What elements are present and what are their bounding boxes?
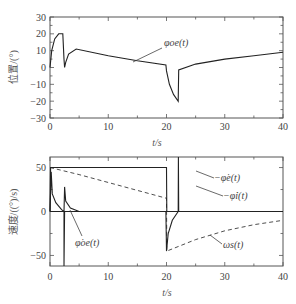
y-tick-label: 0 <box>41 62 46 73</box>
top-annotation-leader <box>133 48 162 62</box>
x-tick-label: 20 <box>162 121 172 132</box>
y-tick-label: −50 <box>30 250 46 261</box>
x-tick-label: 30 <box>220 121 230 132</box>
x-tick-label: 30 <box>220 271 230 282</box>
y-tick-label: 20 <box>36 28 46 39</box>
annotation-omega-s: ωs(t) <box>223 239 244 251</box>
leader-phi-i <box>196 186 223 196</box>
x-tick-label: 10 <box>103 121 113 132</box>
annotation-phi-i: −φ̇i(t) <box>223 190 248 202</box>
y-tick-label: −30 <box>30 113 46 124</box>
y-tick-label: 50 <box>36 162 46 173</box>
y-tick-label: 30 <box>36 12 46 23</box>
bottom-x-ticks: 010203040 <box>48 157 289 282</box>
x-tick-label: 0 <box>48 271 53 282</box>
bottom-y-axis-label: 速度/((°)/s) <box>7 189 20 236</box>
chart-figure: 010203040 3020100−10−20−30 φoe(t) t/s 位置… <box>0 0 296 304</box>
leader-phi-e <box>196 171 214 178</box>
leader-phi-oe <box>70 210 82 236</box>
bottom-series <box>50 157 283 266</box>
top-panel: 010203040 3020100−10−20−30 φoe(t) t/s 位置… <box>7 12 288 149</box>
y-tick-label: 0 <box>41 206 46 217</box>
y-tick-label: −20 <box>30 96 46 107</box>
top-y-ticks: 3020100−10−20−30 <box>30 12 283 124</box>
top-y-axis-label: 位置/(°) <box>7 50 20 83</box>
bottom-panel: 010203040 500−50 −φ̇e(t) −φ̇i(t) φ̇oe(t)… <box>7 157 288 298</box>
x-tick-label: 40 <box>278 121 288 132</box>
x-tick-label: 10 <box>103 271 113 282</box>
top-x-axis-label: t/s <box>152 137 162 148</box>
top-annotation-phi-oe: φoe(t) <box>164 37 189 49</box>
series-line <box>50 168 178 212</box>
x-tick-label: 0 <box>48 121 53 132</box>
annotation-phi-oe: φ̇oe(t) <box>75 237 100 249</box>
y-tick-label: 10 <box>36 45 46 56</box>
x-tick-label: 40 <box>278 271 288 282</box>
y-tick-label: −10 <box>30 79 46 90</box>
leader-omega-s <box>210 235 222 244</box>
annotation-phi-e: −φ̇e(t) <box>214 172 241 184</box>
x-tick-label: 20 <box>162 271 172 282</box>
bottom-x-axis-label: t/s <box>162 287 172 298</box>
